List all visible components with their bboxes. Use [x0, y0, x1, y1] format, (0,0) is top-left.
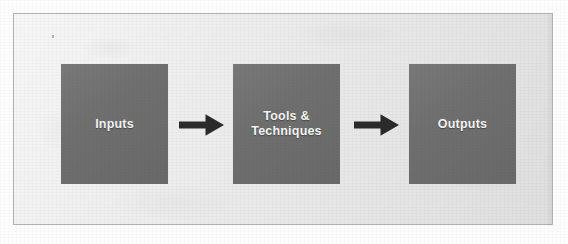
process-box-outputs-label: Outputs — [438, 117, 487, 132]
arrow-right-icon-inputs-to-tools — [179, 112, 225, 138]
arrow-right-icon-tools-to-outputs — [354, 112, 400, 138]
process-box-inputs[interactable]: Inputs — [61, 64, 168, 184]
process-box-tools-techniques-label: Tools & Techniques — [251, 109, 322, 139]
arrow-right-icon — [179, 112, 225, 138]
scanned-figure-canvas: Inputs Tools & Techniques Outputs — [0, 0, 568, 244]
arrow-right-icon — [354, 112, 400, 138]
process-box-outputs[interactable]: Outputs — [409, 64, 516, 184]
process-box-tools-techniques[interactable]: Tools & Techniques — [233, 64, 340, 184]
process-box-inputs-label: Inputs — [95, 117, 134, 132]
process-flow-row: Inputs Tools & Techniques Outputs — [14, 14, 554, 226]
figure-panel: Inputs Tools & Techniques Outputs — [13, 13, 553, 225]
